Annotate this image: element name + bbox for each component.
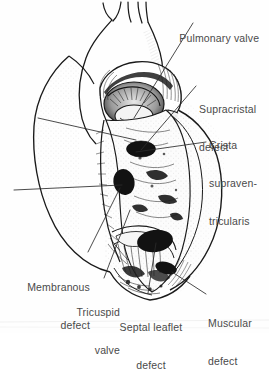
defect-supracristal [127,141,156,157]
label-muscular-defect-line1: Muscular [208,317,252,330]
label-crista-line1: Crista [209,139,257,152]
label-muscular-defect: Muscular defect [208,292,252,373]
label-pulmonary-valve: Pulmonary valve [167,19,259,57]
label-muscular-defect-line2: defect [208,355,252,368]
label-crista-line2: supraven- [209,177,257,190]
label-septal-leaflet-defect: Septal leaflet defect [108,296,194,373]
label-crista-supraventricularis: Crista supraven- tricularis [209,114,257,253]
label-septal-leaflet-defect-line2: defect [108,359,194,372]
label-septal-leaflet-defect-line1: Septal leaflet [108,321,194,334]
label-pulmonary-valve-line1: Pulmonary valve [179,32,259,44]
label-crista-line3: tricularis [209,215,257,228]
